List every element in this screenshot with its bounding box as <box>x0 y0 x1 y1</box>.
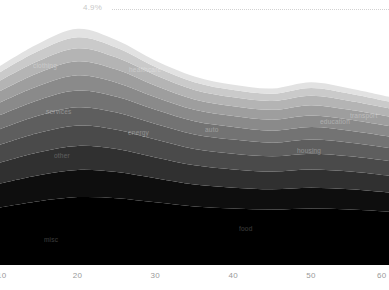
x-axis-tick-60: 60 <box>377 271 387 280</box>
reference-line-label: 4.9% <box>83 3 102 12</box>
x-axis-tick-20: 20 <box>73 271 83 280</box>
x-axis-tick-40: 40 <box>228 271 238 280</box>
stream-chart-root: 4.9% 102030405060 foodmiscotherenergyaut… <box>0 0 389 290</box>
stacked-area-svg <box>0 0 389 265</box>
x-axis: 102030405060 <box>0 265 389 290</box>
reference-line <box>112 9 389 12</box>
x-axis-tick-10: 10 <box>0 271 7 280</box>
x-axis-tick-30: 30 <box>151 271 161 280</box>
chart-plot-area <box>0 0 389 265</box>
x-axis-tick-50: 50 <box>306 271 316 280</box>
